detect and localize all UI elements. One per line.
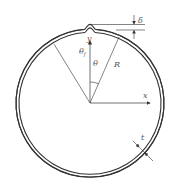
y-axis-label: y: [86, 34, 92, 43]
theta-label: θ: [93, 59, 98, 68]
ring-diagram: δ y x R θ θf t: [0, 0, 180, 192]
radius-label: R: [113, 60, 120, 69]
thickness-arrow-in: [133, 141, 139, 147]
theta-f-subscript: f: [83, 51, 87, 58]
theta-arc: [90, 82, 99, 84]
delta-label: δ: [138, 16, 143, 25]
notch-outer: [85, 24, 96, 29]
thickness-label: t: [141, 133, 145, 142]
theta-f-label: θf: [79, 47, 87, 58]
x-axis-label: x: [143, 91, 148, 100]
radius-line: [90, 37, 119, 103]
thickness-arrow-out: [145, 153, 153, 161]
